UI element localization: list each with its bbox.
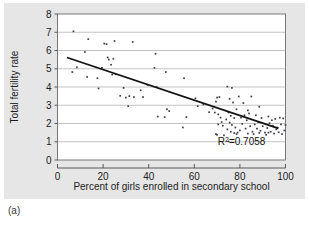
y-tick-label: 1 [46,136,52,147]
y-tick-label: 2 [46,118,52,129]
y-tick-label: 6 [46,45,52,56]
y-tick-label: 8 [46,9,52,20]
y-tick-label: 0 [46,155,52,166]
r-squared-annotation: R2=0.7058 [218,136,266,148]
y-tick-label: 3 [46,100,52,111]
scatter-chart: 012345678 020406080100 Total fertility r… [0,0,309,229]
chart-svg: 012345678 020406080100 Total fertility r… [0,0,309,229]
figure-caption: (a) [8,205,20,216]
figure-panel: 012345678 020406080100 Total fertility r… [0,0,309,229]
y-axis-title: Total fertility rate [9,50,20,123]
y-tick-label: 7 [46,27,52,38]
x-tick-label: 0 [55,171,61,182]
y-tick-label: 5 [46,63,52,74]
y-tick-label: 4 [46,82,52,93]
y-tick-labels: 012345678 [46,9,52,166]
x-tick-label: 100 [277,171,294,182]
x-axis-title: Percent of girls enrolled in secondary s… [73,181,269,192]
x-tick-marks [58,164,286,168]
